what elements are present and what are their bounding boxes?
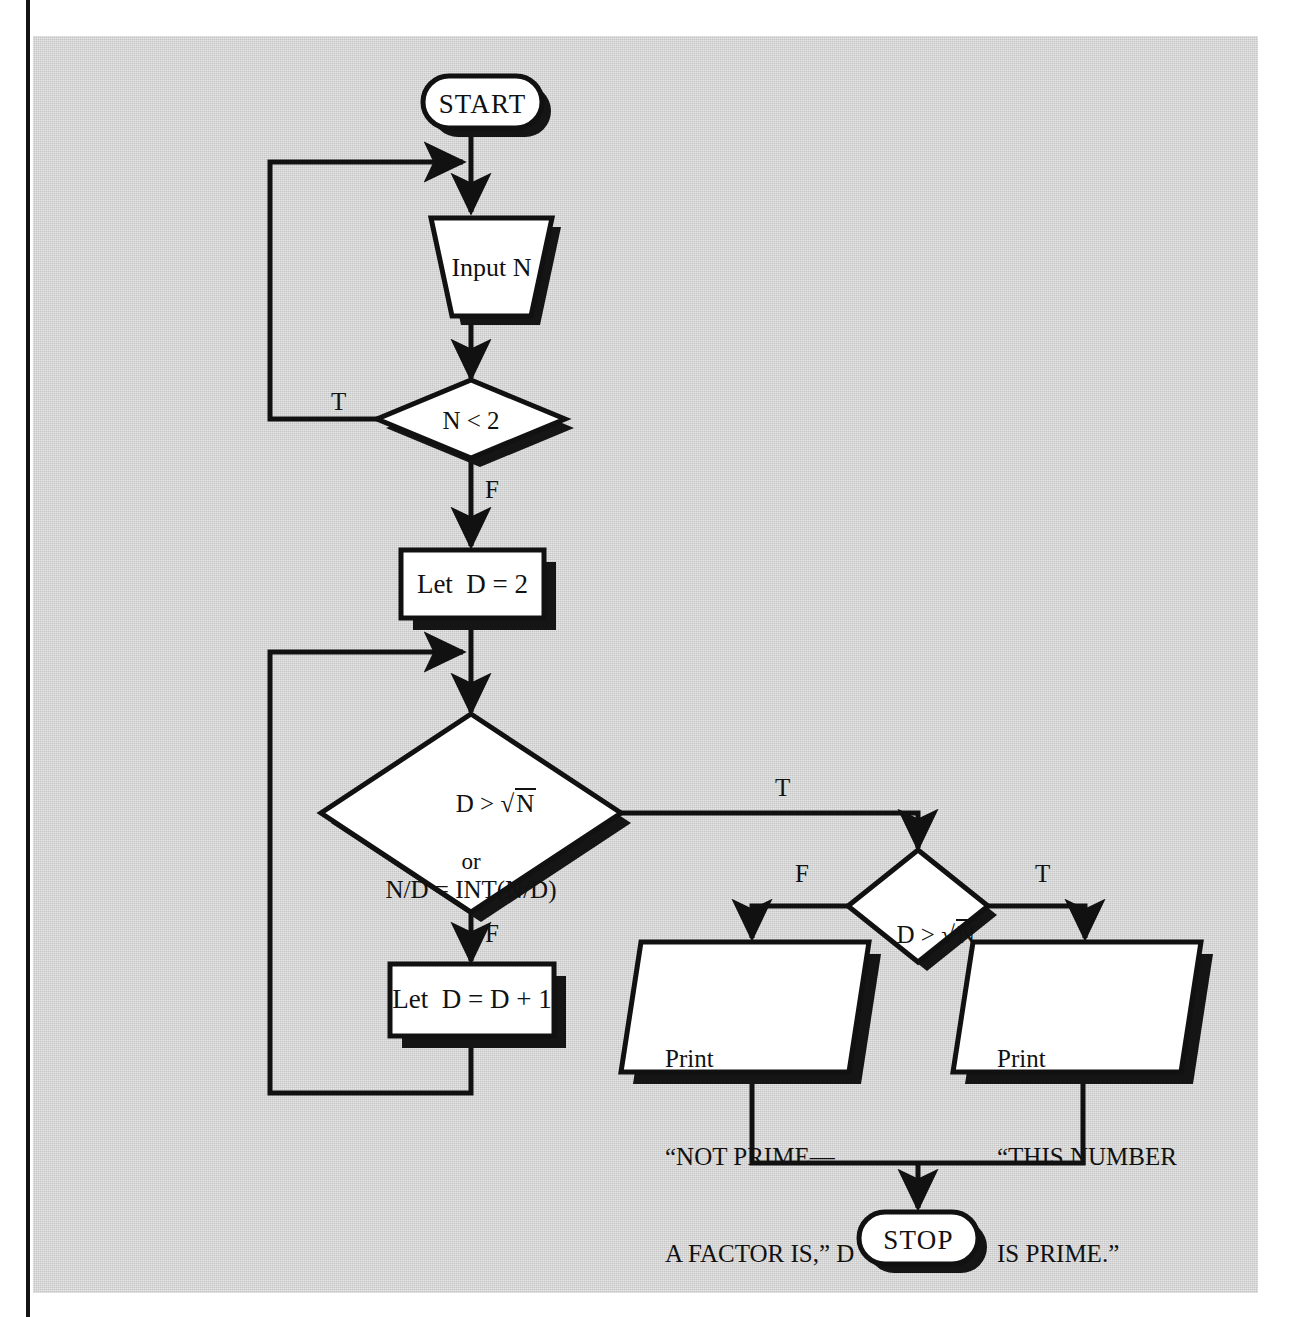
start-body: [423, 76, 542, 128]
node-start[interactable]: [423, 76, 551, 137]
input-body: [431, 218, 552, 316]
node-let-d-2[interactable]: [401, 550, 556, 630]
node-stop[interactable]: [859, 1212, 987, 1273]
node-let-d-inc[interactable]: [390, 964, 566, 1048]
let-d2-body: [401, 550, 544, 618]
test-n-body: [377, 380, 565, 458]
print-not-prime-body: [621, 942, 869, 1072]
node-test-main[interactable]: [321, 714, 631, 922]
page: START Input N N < 2 Let D = 2 D > √N or …: [0, 0, 1290, 1317]
node-print-not-prime[interactable]: [621, 942, 881, 1084]
node-print-is-prime[interactable]: [953, 942, 1213, 1084]
page-left-rule: [26, 0, 30, 1317]
edge-test-n-true-loop: [270, 162, 463, 419]
print-is-prime-body: [953, 942, 1201, 1072]
edge-prints-merge: [752, 1076, 1083, 1163]
let-d-inc-body: [390, 964, 554, 1036]
edge-sqrt-true: [986, 906, 1085, 938]
node-test-n-lt-2[interactable]: [377, 380, 574, 467]
edge-main-true: [621, 813, 918, 848]
stop-body: [859, 1212, 978, 1264]
flowchart-canvas: [33, 36, 1258, 1293]
flowchart-plate: START Input N N < 2 Let D = 2 D > √N or …: [33, 36, 1258, 1293]
node-input-n[interactable]: [431, 218, 561, 325]
edge-sqrt-false: [752, 906, 850, 938]
test-main-body: [321, 714, 621, 912]
